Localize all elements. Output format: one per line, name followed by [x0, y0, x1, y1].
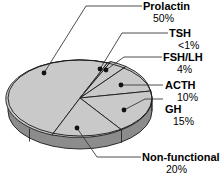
callout-fsh-lh-name: FSH/LH — [163, 51, 203, 63]
callout-tsh-name: TSH — [169, 27, 199, 39]
callout-non-functional-value: 20% — [142, 163, 220, 175]
marker-prolactin — [42, 71, 47, 76]
callout-gh-name: GH — [165, 103, 194, 115]
callout-non-functional-name: Non-functional — [142, 151, 220, 163]
callout-gh-value: 15% — [165, 115, 194, 127]
callout-acth: ACTH 10% — [165, 79, 198, 103]
callout-prolactin-name: Prolactin — [143, 0, 190, 12]
marker-tsh — [98, 67, 103, 72]
callout-non-functional: Non-functional 20% — [142, 151, 220, 175]
marker-gh — [122, 108, 127, 113]
marker-acth — [119, 83, 124, 88]
callout-fsh-lh-value: 4% — [163, 63, 203, 75]
callout-prolactin-value: 50% — [143, 12, 190, 24]
callout-tsh: TSH <1% — [169, 27, 199, 51]
callout-acth-value: 10% — [165, 91, 198, 103]
callout-fsh-lh: FSH/LH 4% — [163, 51, 203, 75]
callout-gh: GH 15% — [165, 103, 194, 127]
pie-top-face — [6, 60, 152, 138]
marker-non-functional — [75, 126, 80, 131]
callout-prolactin: Prolactin 50% — [143, 0, 190, 24]
marker-fsh-lh — [104, 68, 109, 73]
callout-acth-name: ACTH — [165, 79, 198, 91]
pie-chart-figure: Prolactin 50% TSH <1% FSH/LH 4% ACTH 10%… — [0, 0, 221, 176]
callout-tsh-value: <1% — [169, 39, 199, 51]
